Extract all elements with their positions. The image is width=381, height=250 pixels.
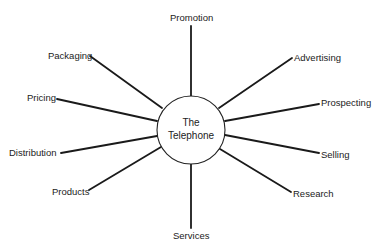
label-research: Research	[293, 189, 334, 199]
spoke-line-prospecting	[225, 104, 319, 121]
label-advertising: Advertising	[294, 53, 341, 63]
label-products: Products	[52, 187, 90, 197]
label-pricing: Pricing	[27, 93, 56, 103]
spoke-line-selling	[225, 135, 319, 153]
center-label-line1: The	[151, 117, 231, 130]
label-selling: Selling	[321, 150, 350, 160]
spoke-line-packaging	[90, 56, 162, 108]
label-distribution: Distribution	[9, 148, 57, 158]
label-packaging: Packaging	[48, 51, 92, 61]
spoke-line-research	[220, 149, 291, 192]
label-promotion: Promotion	[170, 13, 213, 23]
spoke-line-advertising	[219, 58, 292, 108]
label-services: Services	[173, 231, 209, 241]
center-label: The Telephone	[151, 117, 231, 142]
spoke-line-products	[89, 147, 161, 190]
label-prospecting: Prospecting	[321, 98, 371, 108]
spoke-line-pricing	[57, 99, 157, 121]
spoke-line-distribution	[61, 136, 157, 153]
center-label-line2: Telephone	[151, 130, 231, 143]
